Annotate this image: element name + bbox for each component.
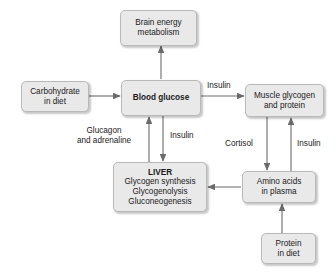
node-line: Protein (276, 239, 302, 249)
node-line: in diet (278, 249, 300, 259)
node-line: Blood glucose (133, 93, 189, 103)
edge-label-line: Glucagon (86, 126, 121, 135)
edge-label-insulin-liver: Insulin (170, 131, 194, 141)
muscle-glycogen-and-protein-node[interactable]: Muscle glycogen and protein (245, 84, 324, 117)
node-line: Brain energy (135, 18, 181, 28)
amino-acids-in-plasma-node[interactable]: Amino acids in plasma (242, 171, 316, 203)
protein-in-diet-node[interactable]: Protein in diet (261, 233, 316, 264)
node-line: LIVER (148, 168, 172, 178)
node-line: and protein (264, 101, 305, 111)
edge-label-insulin-muscle: Insulin (207, 81, 231, 91)
brain-energy-metabolism-node[interactable]: Brain energy metabolism (120, 10, 197, 46)
node-line: Muscle glycogen (254, 91, 315, 101)
node-line: metabolism (138, 28, 180, 38)
node-line: Carbohydrate (30, 87, 80, 97)
node-line: in diet (44, 97, 66, 107)
edge-label-insulin-amino-acids: Insulin (297, 139, 321, 149)
node-line: in plasma (261, 187, 296, 197)
node-line: Amino acids (257, 177, 302, 187)
node-line: Gluconeogenesis (128, 197, 191, 207)
edge-label-line: and adrenaline (77, 136, 131, 145)
flow-diagram: Brain energy metabolism Carbohydrate in … (0, 0, 336, 276)
node-line: Glycogen synthesis (125, 177, 196, 187)
edge-label-cortisol: Cortisol (225, 139, 253, 149)
edge-label-glucagon-and-adrenaline: Glucagon and adrenaline (62, 126, 146, 145)
carbohydrate-in-diet-node[interactable]: Carbohydrate in diet (21, 81, 89, 112)
blood-glucose-node[interactable]: Blood glucose (121, 80, 201, 116)
node-line: Glycogenolysis (132, 187, 187, 197)
liver-node[interactable]: LIVER Glycogen synthesis Glycogenolysis … (113, 162, 207, 212)
